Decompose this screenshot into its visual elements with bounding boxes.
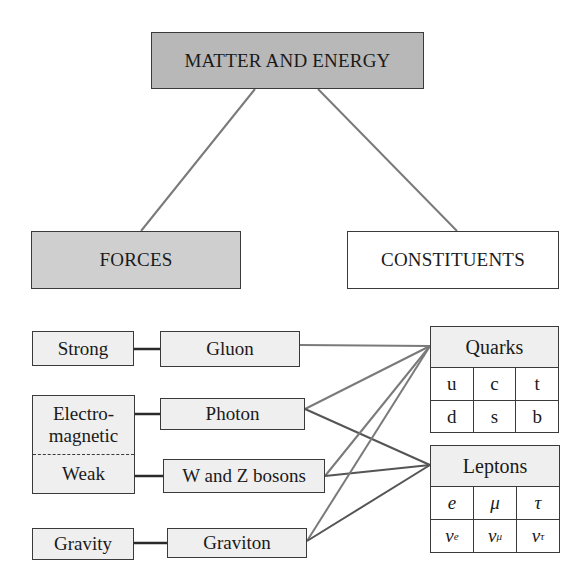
wz-label: W and Z bosons bbox=[182, 465, 306, 487]
leptons-row-1: e μ τ bbox=[431, 487, 559, 519]
line-wz-quarks-a bbox=[325, 346, 430, 476]
root-label: MATTER AND ENERGY bbox=[184, 50, 390, 72]
weak-section: Weak bbox=[33, 454, 134, 493]
quark-cell-d: d bbox=[431, 401, 473, 433]
quarks-row-1: u c t bbox=[431, 368, 558, 400]
quark-cell-s: s bbox=[473, 401, 516, 433]
line-root-to-forces bbox=[141, 89, 255, 231]
lepton-cell-tau: τ bbox=[516, 487, 559, 519]
line-graviton-quarks bbox=[307, 346, 430, 541]
lepton-cell-muon-neutrino: νμ bbox=[473, 520, 516, 552]
root-node-matter-and-energy: MATTER AND ENERGY bbox=[151, 32, 424, 89]
gluon-label: Gluon bbox=[206, 338, 254, 360]
carrier-node-w-and-z-bosons: W and Z bosons bbox=[163, 459, 325, 493]
quarks-header: Quarks bbox=[431, 327, 558, 368]
force-node-strong: Strong bbox=[32, 331, 134, 366]
electromagnetic-section: Electro- magnetic bbox=[33, 396, 134, 455]
carrier-node-graviton: Graviton bbox=[167, 528, 307, 558]
force-node-gravity: Gravity bbox=[32, 528, 134, 560]
lepton-cell-tau-neutrino: ντ bbox=[516, 520, 559, 552]
leptons-row-2: νe νμ ντ bbox=[431, 519, 559, 552]
leptons-header: Leptons bbox=[431, 446, 559, 487]
weak-label: Weak bbox=[62, 463, 105, 485]
force-node-electromagnetic-weak: Electro- magnetic Weak bbox=[32, 395, 135, 494]
line-root-to-constituents bbox=[318, 89, 457, 231]
quark-cell-t: t bbox=[515, 368, 558, 400]
graviton-label: Graviton bbox=[203, 532, 271, 554]
quark-cell-u: u bbox=[431, 368, 473, 400]
carrier-node-photon: Photon bbox=[160, 398, 305, 430]
electromagnetic-label-line1: Electro- bbox=[53, 403, 114, 424]
category-node-forces: FORCES bbox=[31, 231, 241, 289]
quarks-table: Quarks u c t d s b bbox=[430, 326, 559, 433]
lepton-cell-electron: e bbox=[431, 487, 473, 519]
line-gluon-quarks bbox=[300, 345, 430, 346]
category-node-constituents: CONSTITUENTS bbox=[347, 231, 559, 289]
lepton-cell-muon: μ bbox=[473, 487, 516, 519]
gravity-label: Gravity bbox=[54, 533, 112, 555]
quarks-row-2: d s b bbox=[431, 400, 558, 433]
photon-label: Photon bbox=[206, 403, 260, 425]
electromagnetic-label-line2: magnetic bbox=[49, 425, 119, 446]
strong-label: Strong bbox=[58, 338, 109, 360]
carrier-node-gluon: Gluon bbox=[160, 331, 300, 367]
leptons-table: Leptons e μ τ νe νμ ντ bbox=[430, 445, 560, 553]
lepton-cell-electron-neutrino: νe bbox=[431, 520, 473, 552]
line-photon-leptons bbox=[305, 409, 430, 465]
constituents-label: CONSTITUENTS bbox=[381, 249, 525, 271]
quark-cell-b: b bbox=[515, 401, 558, 433]
quark-cell-c: c bbox=[473, 368, 516, 400]
forces-label: FORCES bbox=[99, 249, 172, 271]
